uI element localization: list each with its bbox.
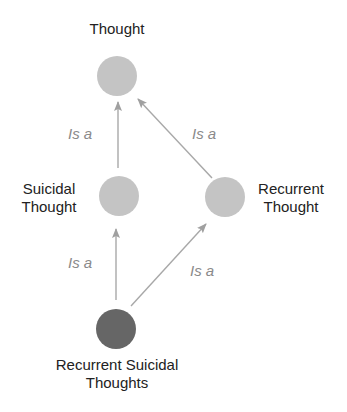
label-line: Thought [248, 198, 334, 216]
edge-label-rst-to-recurrent: Is a [190, 262, 214, 279]
node-recurrent-suicidal-thoughts [96, 309, 136, 349]
node-label-recurrent-suicidal-thoughts: Recurrent Suicidal Thoughts [36, 356, 198, 392]
node-suicidal-thought [99, 176, 139, 216]
label-line: Suicidal [14, 180, 84, 198]
node-label-thought: Thought [70, 20, 164, 38]
label-line: Recurrent Suicidal [36, 356, 198, 374]
node-label-recurrent-thought: Recurrent Thought [248, 180, 334, 216]
edge-label-recurrent-to-thought: Is a [192, 125, 216, 142]
label-line: Thought [14, 198, 84, 216]
edge-label-suicidal-to-thought: Is a [68, 125, 92, 142]
label-line: Recurrent [248, 180, 334, 198]
node-recurrent-thought [205, 177, 245, 217]
edge-label-rst-to-suicidal: Is a [68, 254, 92, 271]
node-thought [97, 56, 137, 96]
label-line: Thoughts [36, 374, 198, 392]
node-label-suicidal-thought: Suicidal Thought [14, 180, 84, 216]
